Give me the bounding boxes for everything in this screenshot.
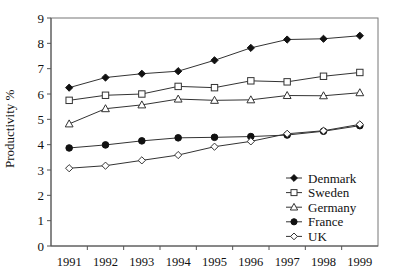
marker-filled-diamond xyxy=(320,35,327,42)
y-tick-label: 5 xyxy=(38,112,45,127)
marker-filled-circle xyxy=(175,135,182,142)
marker-filled-diamond xyxy=(291,175,298,182)
y-tick-label: 8 xyxy=(38,36,45,51)
legend-item-germany: Germany xyxy=(286,200,357,215)
legend-item-france: France xyxy=(286,214,344,229)
x-tick-label: 1993 xyxy=(129,255,154,269)
marker-filled-diamond xyxy=(66,84,73,91)
x-axis-ticks: 199119921993199419951996199719981999 xyxy=(57,246,373,269)
legend-label: Denmark xyxy=(308,171,357,186)
marker-open-diamond xyxy=(102,162,109,169)
marker-open-square xyxy=(175,83,181,89)
legend-item-uk: UK xyxy=(286,229,327,244)
marker-open-triangle xyxy=(283,92,291,99)
x-tick-label: 1992 xyxy=(93,255,118,269)
legend-label: France xyxy=(308,214,344,229)
y-tick-label: 9 xyxy=(38,11,45,26)
marker-open-diamond xyxy=(138,157,145,164)
y-tick-label: 0 xyxy=(38,239,45,254)
series-germany xyxy=(65,89,363,127)
marker-open-square xyxy=(139,91,145,97)
marker-open-diamond xyxy=(211,143,218,150)
legend-item-sweden: Sweden xyxy=(286,185,350,200)
y-tick-label: 3 xyxy=(38,163,45,178)
x-tick-label: 1996 xyxy=(238,255,263,269)
marker-open-square xyxy=(102,92,108,98)
marker-filled-diamond xyxy=(175,68,182,75)
legend-label: UK xyxy=(308,229,327,244)
marker-filled-diamond xyxy=(247,44,254,51)
marker-open-triangle xyxy=(174,95,182,102)
y-tick-label: 1 xyxy=(38,213,45,228)
y-tick-label: 4 xyxy=(38,137,45,152)
marker-open-diamond xyxy=(291,233,298,240)
marker-open-square xyxy=(211,84,217,90)
y-tick-label: 6 xyxy=(38,87,45,102)
marker-open-square xyxy=(291,190,297,196)
x-tick-label: 1991 xyxy=(57,255,82,269)
marker-open-triangle xyxy=(356,89,364,96)
marker-open-square xyxy=(248,78,254,84)
marker-open-square xyxy=(284,79,290,85)
marker-filled-circle xyxy=(211,134,218,141)
y-tick-label: 7 xyxy=(38,61,45,76)
marker-filled-diamond xyxy=(211,57,218,64)
legend-label: Sweden xyxy=(308,185,350,200)
chart-svg: 0123456789 19911992199319941995199619971… xyxy=(0,0,397,279)
series-layer xyxy=(65,32,363,172)
marker-filled-circle xyxy=(139,138,146,145)
marker-filled-diamond xyxy=(284,36,291,43)
legend-label: Germany xyxy=(308,200,357,215)
marker-filled-circle xyxy=(291,219,297,225)
marker-open-square xyxy=(320,73,326,79)
marker-filled-diamond xyxy=(102,74,109,81)
x-tick-label: 1997 xyxy=(275,255,300,269)
x-tick-label: 1998 xyxy=(311,255,336,269)
marker-filled-circle xyxy=(66,145,73,152)
chart-legend: DenmarkSwedenGermanyFranceUK xyxy=(286,171,357,244)
y-tick-label: 2 xyxy=(38,188,45,203)
marker-filled-circle xyxy=(102,142,109,149)
marker-open-diamond xyxy=(66,165,73,172)
legend-item-denmark: Denmark xyxy=(286,171,357,186)
series-uk xyxy=(66,121,364,172)
productivity-line-chart: 0123456789 19911992199319941995199619971… xyxy=(0,0,397,279)
y-axis-title: Productivity % xyxy=(2,89,17,168)
x-tick-label: 1999 xyxy=(347,255,372,269)
y-axis-ticks: 0123456789 xyxy=(38,11,52,254)
marker-open-diamond xyxy=(175,151,182,158)
x-tick-label: 1995 xyxy=(202,255,227,269)
marker-filled-diamond xyxy=(356,32,363,39)
series-denmark xyxy=(66,32,364,91)
x-tick-label: 1994 xyxy=(166,255,192,269)
marker-filled-diamond xyxy=(138,70,145,77)
marker-open-square xyxy=(66,97,72,103)
marker-open-square xyxy=(357,69,363,75)
marker-open-triangle xyxy=(65,120,73,127)
